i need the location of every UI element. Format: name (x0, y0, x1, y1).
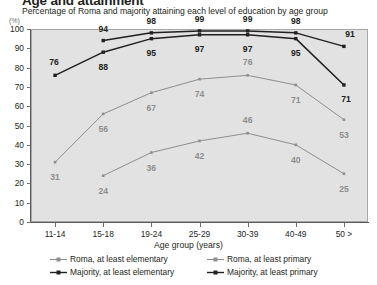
data-point-label: 25 (339, 184, 349, 194)
series-marker (150, 91, 153, 94)
data-point-label: 98 (147, 16, 157, 26)
series-marker (150, 151, 153, 154)
series-marker (342, 45, 345, 48)
series-marker (342, 83, 345, 86)
series-marker (102, 39, 105, 42)
data-point-label: 71 (341, 94, 351, 104)
data-point-label: 53 (339, 130, 349, 140)
y-axis-tick-label: 30 (0, 159, 24, 169)
data-point-label: 99 (195, 14, 205, 24)
legend-item-roma-at-least-elementary[interactable]: Roma, at least elementary (50, 254, 168, 264)
x-axis-tick-mark (151, 223, 152, 227)
series-marker (294, 31, 297, 34)
legend-label: Majority, at least elementary (70, 267, 174, 277)
x-axis-tick-label: 19-24 (141, 229, 162, 239)
data-point-label: 36 (147, 163, 157, 173)
y-axis-tick-label: 100 (0, 24, 24, 34)
data-point-label: 76 (243, 57, 253, 67)
legend-item-majority-at-least-primary[interactable]: Majority, at least primary (207, 267, 318, 277)
data-point-label: 56 (98, 124, 108, 134)
series-marker (294, 84, 297, 87)
data-point-label: 88 (98, 62, 108, 72)
series-marker (150, 31, 153, 34)
legend-item-roma-at-least-primary[interactable]: Roma, at least primary (207, 254, 311, 264)
y-axis-tick-label: 10 (0, 198, 24, 208)
data-point-label: 98 (291, 16, 301, 26)
series-marker (102, 174, 105, 177)
y-axis-tick-mark (27, 222, 31, 223)
series-marker (54, 161, 57, 164)
data-point-label: 97 (195, 44, 205, 54)
chart-series-layer (31, 29, 368, 222)
legend-label: Majority, at least primary (227, 267, 318, 277)
data-point-label: 24 (98, 186, 108, 196)
series-marker (102, 50, 105, 53)
x-axis-tick-label: 25-29 (189, 229, 210, 239)
series-marker (246, 29, 249, 32)
y-axis-tick-label: 90 (0, 43, 24, 53)
y-axis-tick-label: 50 (0, 121, 24, 131)
data-point-label: 99 (243, 14, 253, 24)
x-axis-tick-label: 50 > (336, 229, 353, 239)
legend-marker-icon (207, 255, 224, 264)
data-point-label: 31 (50, 172, 60, 182)
legend-label: Roma, at least elementary (70, 254, 168, 264)
series-marker (198, 33, 201, 36)
legend-marker-icon (50, 255, 67, 264)
y-axis-tick-label: 0 (0, 217, 24, 227)
x-axis-tick-label: 15-18 (92, 229, 113, 239)
series-line (103, 133, 344, 175)
series-marker (150, 37, 153, 40)
data-point-label: 94 (98, 24, 108, 34)
x-axis-tick-mark (344, 223, 345, 227)
legend-marker-icon (207, 268, 224, 277)
data-point-label: 95 (147, 48, 157, 58)
series-line (55, 35, 344, 85)
series-marker (294, 144, 297, 147)
data-point-label: 71 (291, 95, 301, 105)
y-axis-tick-label: 70 (0, 82, 24, 92)
legend-marker-icon (50, 268, 67, 277)
y-axis-tick-label: 80 (0, 63, 24, 73)
data-point-label: 76 (49, 57, 59, 67)
y-axis-tick-label: 20 (0, 178, 24, 188)
x-axis-title: Age group (years) (0, 240, 377, 250)
y-axis-tick-label: 40 (0, 140, 24, 150)
x-axis-tick-label: 11-14 (45, 229, 66, 239)
x-axis-tick-label: 40-49 (285, 229, 306, 239)
chart-legend: Roma, at least elementary Majority, at l… (0, 252, 377, 282)
data-point-label: 42 (195, 151, 205, 161)
x-axis-tick-mark (103, 223, 104, 227)
x-axis-tick-mark (296, 223, 297, 227)
series-marker (198, 78, 201, 81)
series-marker (198, 140, 201, 143)
series-marker (343, 118, 346, 121)
chart-subtitle: Percentage of Roma and majority attainin… (22, 6, 328, 16)
data-point-label: 97 (243, 44, 253, 54)
x-axis-tick-mark (55, 223, 56, 227)
series-marker (198, 29, 201, 32)
legend-item-majority-at-least-elementary[interactable]: Majority, at least elementary (50, 267, 174, 277)
series-marker (246, 74, 249, 77)
series-marker (343, 172, 346, 175)
data-point-label: 91 (345, 29, 355, 39)
data-point-label: 95 (291, 48, 301, 58)
series-marker (246, 132, 249, 135)
data-point-label: 40 (291, 155, 301, 165)
series-marker (102, 113, 105, 116)
series-marker (294, 37, 297, 40)
x-axis-tick-mark (248, 223, 249, 227)
series-marker (53, 74, 56, 77)
x-axis-tick-mark (200, 223, 201, 227)
y-axis-unit-label: (%) (9, 17, 20, 24)
y-axis-tick-label: 60 (0, 101, 24, 111)
series-marker (246, 33, 249, 36)
x-axis-tick-label: 30-39 (237, 229, 258, 239)
legend-label: Roma, at least primary (227, 254, 311, 264)
data-point-label: 46 (243, 115, 253, 125)
series-line (103, 31, 344, 46)
data-point-label: 67 (147, 103, 157, 113)
data-point-label: 74 (195, 89, 205, 99)
